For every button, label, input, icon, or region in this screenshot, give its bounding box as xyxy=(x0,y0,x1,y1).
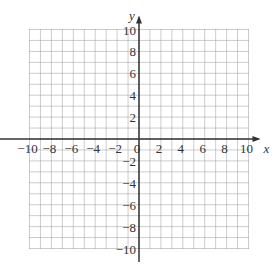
y-tick-label: 4 xyxy=(130,88,137,103)
x-tick-label: −10 xyxy=(17,141,37,156)
x-tick-label: −8 xyxy=(42,141,56,156)
x-tick-label: 8 xyxy=(221,141,228,156)
y-tick-label: 10 xyxy=(123,23,136,38)
x-axis-arrow-icon xyxy=(253,136,261,142)
y-tick-label: −2 xyxy=(122,154,136,169)
y-tick-label: −8 xyxy=(122,220,136,235)
x-tick-label: 4 xyxy=(178,141,185,156)
y-tick-label: 2 xyxy=(130,110,137,125)
x-tick-label: −2 xyxy=(108,141,122,156)
x-tick-label: 6 xyxy=(199,141,206,156)
y-axis-label: y xyxy=(127,8,135,23)
y-tick-label: −10 xyxy=(116,242,136,257)
x-axis-label: x xyxy=(263,141,270,156)
coordinate-grid: −10−8−6−4−20246810 −10−8−6−4−2246810 x y xyxy=(0,0,280,268)
y-tick-label: −6 xyxy=(122,198,136,213)
y-tick-label: 6 xyxy=(130,66,137,81)
x-tick-label: 10 xyxy=(240,141,253,156)
x-tick-label: −4 xyxy=(86,141,100,156)
y-tick-label: 8 xyxy=(130,44,137,59)
y-axis-arrow-icon xyxy=(136,16,142,24)
x-tick-label: 2 xyxy=(156,141,163,156)
y-tick-label: −4 xyxy=(122,176,136,191)
x-tick-label: −6 xyxy=(64,141,78,156)
